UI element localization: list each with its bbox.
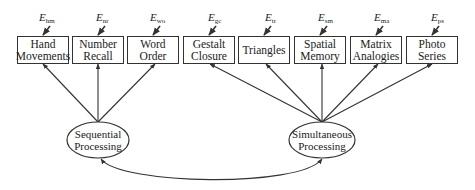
box-label: Closure: [191, 50, 227, 62]
latent-label: Simultaneous: [292, 128, 352, 140]
latent-label: Processing: [298, 140, 346, 152]
correlation-arrow: [101, 159, 322, 180]
loading-arrows: [43, 64, 432, 122]
observed-box-matrix-analogies: MatrixAnalogies: [350, 36, 402, 64]
latent-sequential-processing: SequentialProcessing: [67, 122, 129, 158]
error-arrows: [43, 26, 439, 35]
latent-simultaneous-processing: SimultaneousProcessing: [289, 122, 355, 158]
error-label-hm: Ehm: [39, 11, 55, 25]
box-label: Series: [418, 50, 446, 62]
observed-box-gestalt-closure: GestaltClosure: [183, 36, 235, 64]
box-label: Order: [140, 50, 167, 62]
box-label: Analogies: [353, 50, 400, 62]
error-label-wo: Ewo: [150, 11, 165, 25]
error-label-nr: Enr: [96, 11, 109, 25]
observed-box-number-recall: NumberRecall: [72, 36, 124, 64]
error-label-tr: Etr: [265, 11, 276, 25]
observed-box-photo-series: PhotoSeries: [406, 36, 458, 64]
box-label: Photo: [419, 38, 446, 50]
observed-box-triangles: Triangles: [238, 36, 290, 64]
box-label: Word: [140, 38, 165, 50]
observed-box-spatial-memory: SpatialMemory: [294, 36, 346, 64]
diagram-edges: [0, 0, 475, 190]
observed-box-word-order: WordOrder: [127, 36, 179, 64]
error-label-ps: Eps: [431, 11, 444, 25]
box-label: Matrix: [360, 38, 391, 50]
error-label-gc: Egc: [208, 11, 221, 25]
latent-label: Sequential: [75, 128, 121, 140]
box-label: Recall: [83, 50, 112, 62]
box-label: Memory: [300, 50, 340, 62]
box-label: Gestalt: [193, 38, 226, 50]
box-label: Spatial: [304, 38, 336, 50]
sem-diagram: Ehm Enr Ewo Egc Etr Esm Ema Eps HandMove…: [0, 0, 475, 190]
latent-label: Processing: [74, 140, 122, 152]
box-label: Number: [79, 38, 117, 50]
box-label: Movements: [16, 50, 70, 62]
box-label: Triangles: [242, 44, 285, 56]
box-label: Hand: [31, 38, 56, 50]
observed-box-hand-movements: HandMovements: [17, 36, 69, 64]
error-label-sm: Esm: [318, 11, 333, 25]
error-label-ma: Ema: [374, 11, 389, 25]
